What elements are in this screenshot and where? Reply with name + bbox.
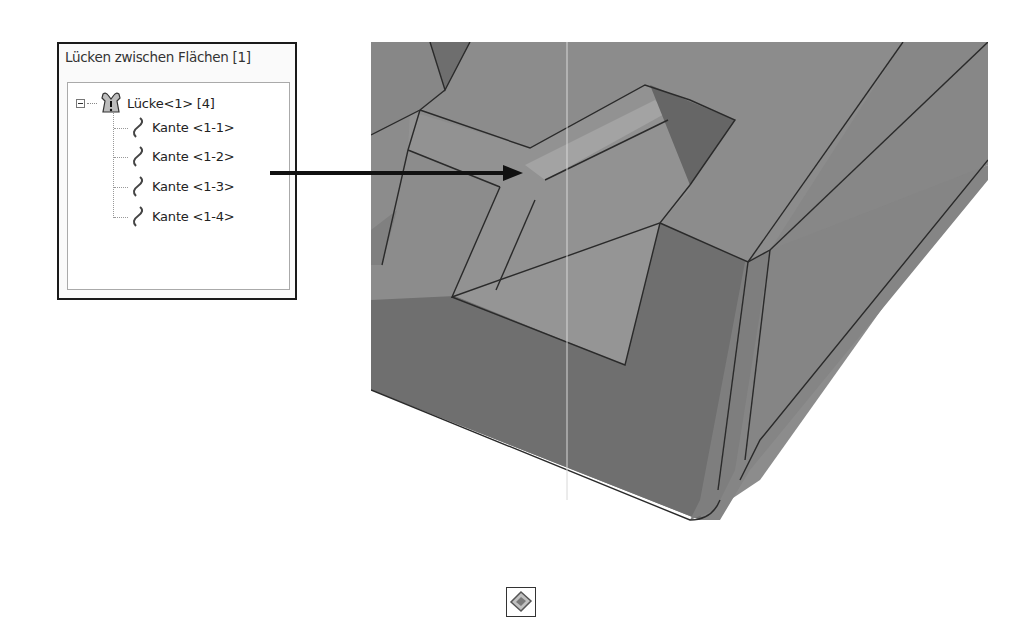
edge-curve-icon: [130, 145, 146, 167]
edge-curve-icon: [130, 175, 146, 197]
tree-item-edge[interactable]: Kante <1-4>: [130, 204, 235, 228]
tree-item-label: Kante <1-2>: [152, 149, 235, 164]
tree-connector: [114, 128, 128, 129]
callout-arrow-line: [270, 171, 507, 175]
gaps-panel: Lücken zwischen Flächen [1] Lücke<1> [4]…: [57, 42, 297, 300]
tree-item-edge[interactable]: Kante <1-1>: [130, 115, 235, 139]
edge-curve-icon: [130, 205, 146, 227]
tree-item-label: Kante <1-1>: [152, 120, 235, 135]
tree-item-edge[interactable]: Kante <1-2>: [130, 144, 235, 168]
gap-tree: Lücke<1> [4] Kante <1-1> Kante <1-2> Kan…: [67, 82, 290, 290]
callout-arrow-head: [503, 165, 523, 181]
tree-item-edge[interactable]: Kante <1-3>: [130, 174, 235, 198]
tree-connector: [114, 157, 128, 158]
tree-item-label: Kante <1-4>: [152, 209, 235, 224]
tree-item-label: Kante <1-3>: [152, 179, 235, 194]
tree-connector: [114, 217, 128, 218]
tree-item-root[interactable]: Lücke<1> [4]: [76, 91, 215, 115]
model-viewport[interactable]: [371, 42, 988, 532]
tree-connector: [87, 103, 97, 104]
surface-repair-button[interactable]: [506, 587, 536, 617]
tree-connector: [113, 103, 114, 218]
surface-repair-icon: [507, 588, 535, 616]
tree-item-label: Lücke<1> [4]: [127, 96, 215, 111]
panel-title: Lücken zwischen Flächen [1]: [65, 49, 251, 65]
collapse-icon[interactable]: [76, 99, 85, 108]
gap-warning-icon: [99, 92, 123, 114]
edge-curve-icon: [130, 116, 146, 138]
tree-connector: [114, 187, 128, 188]
